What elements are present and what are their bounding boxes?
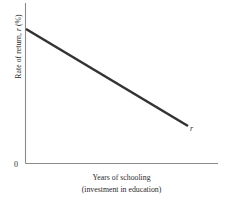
x-axis-title-line1: Years of schooling: [25, 172, 218, 184]
x-axis-title: Years of schooling (investment in educat…: [25, 172, 218, 195]
series-annotation-r: r: [190, 124, 193, 133]
origin-label: 0: [14, 160, 18, 170]
series-line-r: [26, 29, 188, 126]
chart-figure: Rate of return, r (%) 0 r Years of schoo…: [0, 0, 227, 203]
x-axis-title-line2: (investment in education): [25, 184, 218, 196]
